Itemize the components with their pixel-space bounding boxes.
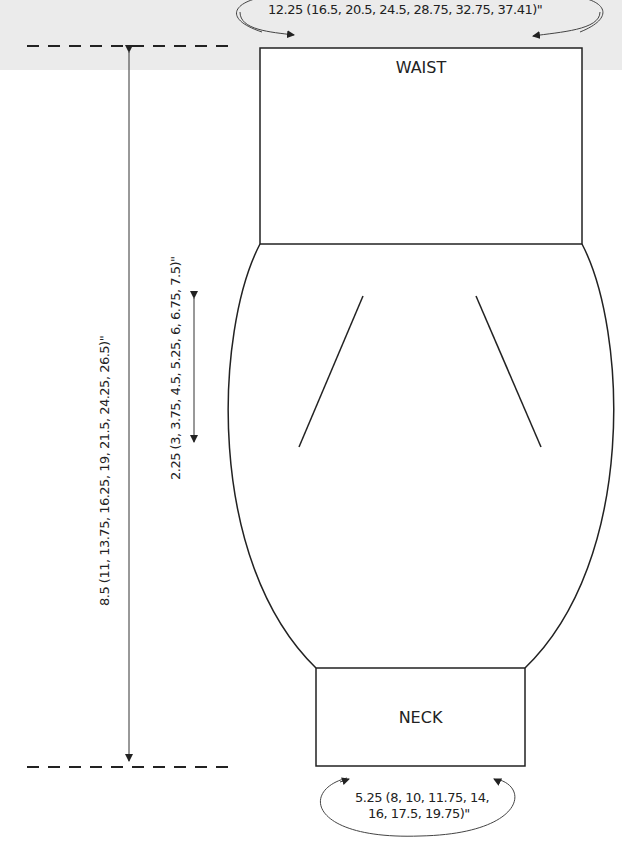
total-length-label: 8.5 (11, 13.75, 16.25, 19, 21.5, 24.25, … (97, 336, 112, 606)
neck-width-label-line2: 16, 17.5, 19.75)" (368, 806, 470, 821)
dart-length-label: 2.25 (3, 3.75, 4.5, 5.25, 6, 6.75, 7.5)" (168, 256, 183, 480)
left-dart (299, 296, 363, 447)
neck-width-label-line1: 5.25 (8, 10, 11.75, 14, (355, 790, 489, 805)
waist-width-label: 12.25 (16.5, 20.5, 24.5, 28.75, 32.75, 3… (268, 2, 542, 17)
waist-label: WAIST (260, 58, 582, 77)
right-dart (476, 296, 541, 447)
waist-box (260, 48, 582, 244)
neck-label: NECK (316, 708, 525, 727)
body-outline (228, 244, 614, 668)
schematic-drawing (0, 0, 622, 850)
